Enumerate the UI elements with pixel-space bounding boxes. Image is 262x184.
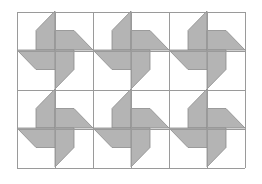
pinwheel-blade: [93, 50, 131, 70]
pinwheel-blade: [188, 89, 207, 128]
pinwheel-blade: [93, 128, 131, 148]
pinwheel-blade: [55, 50, 74, 89]
pinwheel-blade: [131, 31, 169, 51]
pinwheel-blade: [169, 128, 207, 148]
pinwheel-diagram: [0, 0, 262, 184]
pinwheel-blade: [55, 128, 74, 167]
pinwheel-blade: [36, 11, 55, 50]
pinwheel-blade: [55, 109, 93, 129]
pinwheel-blade: [131, 128, 150, 167]
pinwheel-blade: [17, 128, 55, 148]
pinwheel-blade: [188, 11, 207, 50]
pinwheel-blade: [169, 50, 207, 70]
pinwheel-blade: [207, 109, 245, 129]
pinwheel-blade: [55, 31, 93, 51]
pinwheel-blade: [207, 128, 226, 167]
pinwheel-blade: [131, 50, 150, 89]
pinwheel-blade: [36, 89, 55, 128]
pinwheel-blade: [207, 31, 245, 51]
pinwheel-blade: [112, 11, 131, 50]
pinwheel-blade: [112, 89, 131, 128]
pinwheel-blade: [131, 109, 169, 129]
pinwheel-blade: [17, 50, 55, 70]
pinwheel-blade: [207, 50, 226, 89]
